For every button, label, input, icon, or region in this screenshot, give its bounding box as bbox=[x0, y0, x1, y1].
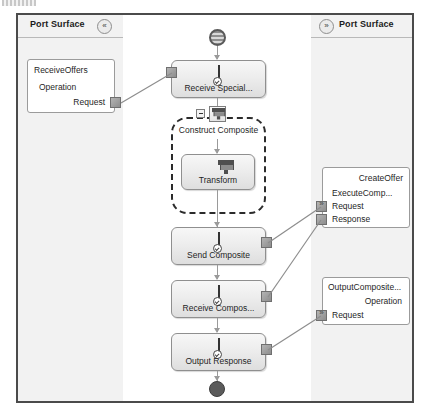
shape-connector-handle-receive-composite[interactable] bbox=[261, 291, 272, 302]
end-shape-icon[interactable] bbox=[209, 381, 225, 397]
port-name: CreateOffer bbox=[359, 173, 403, 183]
port-connector-handle-createoffer-response[interactable] bbox=[316, 214, 327, 225]
chevron-double-left-icon[interactable]: « bbox=[97, 19, 112, 34]
chevron-double-right-icon[interactable]: » bbox=[319, 19, 334, 34]
shape-connector-handle-send-composite[interactable] bbox=[261, 237, 272, 248]
port-name: ReceiveOffers bbox=[34, 65, 88, 75]
envelope-icon bbox=[218, 66, 220, 84]
orchestration-canvas[interactable]: Receive Special... Construct Composite T… bbox=[123, 15, 311, 401]
port-operation: Operation bbox=[365, 296, 402, 306]
designer-frame: Port Surface « ReceiveOffers Operation R… bbox=[16, 13, 414, 403]
port-message-request: Request bbox=[332, 310, 364, 320]
left-port-surface-header: Port Surface « bbox=[18, 15, 123, 38]
port-connector-handle-createoffer-request[interactable] bbox=[316, 201, 327, 212]
port-box-receiveoffers[interactable]: ReceiveOffers Operation Request bbox=[27, 59, 115, 113]
right-port-surface-title: Port Surface bbox=[339, 19, 394, 29]
shape-label: Output Response bbox=[172, 356, 265, 366]
port-message-request: Request bbox=[332, 201, 364, 211]
orchestration-designer: Port Surface « ReceiveOffers Operation R… bbox=[0, 0, 431, 418]
shape-send-composite[interactable]: Send Composite bbox=[171, 227, 266, 265]
port-operation: ExecuteComp... bbox=[332, 188, 392, 198]
envelope-icon bbox=[218, 339, 220, 357]
envelope-icon bbox=[218, 286, 220, 304]
right-port-surface[interactable]: » Port Surface CreateOffer ExecuteComp..… bbox=[310, 15, 412, 401]
port-name: OutputComposite... bbox=[328, 282, 401, 292]
shape-label: Send Composite bbox=[172, 250, 265, 260]
shape-transform[interactable]: Transform bbox=[181, 154, 255, 190]
shape-label: Receive Compos... bbox=[172, 303, 265, 313]
port-message-response: Response bbox=[332, 214, 370, 224]
envelope-icon bbox=[218, 233, 220, 251]
left-port-surface-title: Port Surface bbox=[30, 19, 85, 29]
shape-receive-special[interactable]: Receive Special... bbox=[171, 60, 266, 98]
minus-icon[interactable] bbox=[196, 109, 205, 118]
right-port-surface-header: » Port Surface bbox=[311, 15, 412, 38]
window-title-sliver bbox=[2, 0, 36, 6]
shape-connector-handle-output-response[interactable] bbox=[261, 344, 272, 355]
begin-shape-icon[interactable] bbox=[209, 29, 226, 46]
port-box-outputcomposite[interactable]: OutputComposite... Operation Request bbox=[322, 277, 410, 325]
transform-icon bbox=[209, 106, 226, 122]
shape-receive-composite[interactable]: Receive Compos... bbox=[171, 280, 266, 318]
port-connector-handle-receiveoffers-request[interactable] bbox=[110, 97, 121, 108]
port-connector-handle-outputcomposite-request[interactable] bbox=[316, 310, 327, 321]
port-box-createoffer[interactable]: CreateOffer ExecuteComp... Request Respo… bbox=[322, 167, 410, 228]
shape-output-response[interactable]: Output Response bbox=[171, 333, 266, 371]
shape-connector-handle-receive-special[interactable] bbox=[166, 67, 177, 78]
group-label: Construct Composite bbox=[171, 125, 266, 135]
left-port-surface[interactable]: Port Surface « ReceiveOffers Operation R… bbox=[18, 15, 124, 401]
shape-label: Transform bbox=[182, 175, 254, 185]
port-operation: Operation bbox=[39, 82, 76, 92]
port-message: Request bbox=[73, 97, 105, 107]
shape-label: Receive Special... bbox=[172, 83, 265, 93]
